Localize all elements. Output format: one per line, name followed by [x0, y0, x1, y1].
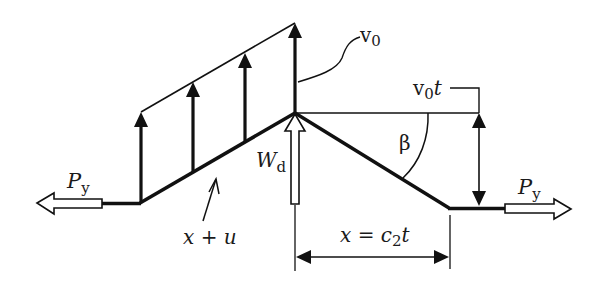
- material-coord-pointer: [203, 179, 216, 221]
- velocity-leader-line: [298, 37, 360, 82]
- label-wavefront: x = c2t: [340, 223, 411, 250]
- velocity-envelope: [141, 23, 295, 112]
- arrowhead-right-icon: [434, 250, 449, 264]
- velocity-arrows: [134, 23, 302, 203]
- arrowhead-up-icon: [472, 113, 486, 128]
- label-velocity: v0: [359, 23, 381, 50]
- arrowhead-left-icon: [296, 250, 311, 264]
- impact-diagram: Py Py v0 v0t: [0, 0, 601, 289]
- hollow-arrow-left-icon: [37, 193, 102, 214]
- arrowhead-up-icon: [134, 112, 148, 127]
- label-tension-left: Py: [66, 169, 90, 197]
- wavefront-dimension-arrow: [296, 250, 449, 264]
- hollow-arrow-up-icon: [285, 114, 305, 204]
- displacement-double-arrow: [472, 113, 486, 206]
- impact-load-arrow: [285, 114, 305, 204]
- label-tension-right: Py: [517, 175, 541, 203]
- label-load: Wd: [256, 148, 287, 176]
- displacement-leader-line: [450, 88, 479, 113]
- label-material-coord: x + u: [183, 225, 237, 249]
- arrowhead-down-icon: [472, 191, 486, 206]
- label-displacement: v0t: [412, 76, 443, 103]
- tension-arrow-left: [37, 193, 102, 214]
- string-right-slope: [295, 113, 449, 208]
- label-angle: β: [399, 131, 411, 155]
